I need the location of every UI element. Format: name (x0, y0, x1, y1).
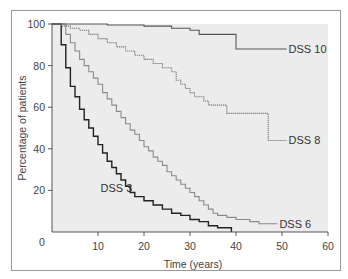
y-tick-label: 20 (33, 184, 45, 196)
y-tick-label: 100 (27, 18, 45, 30)
series-label-dss-8: DSS 8 (289, 134, 321, 146)
series-label-dss-6: DSS 6 (279, 218, 311, 230)
y-axis-title: Percentage of patients (16, 75, 28, 180)
series-label-dss-10: DSS 10 (289, 43, 327, 55)
survival-chart: 10203040506020406080100 DSS 3DSS 6DSS 8D… (0, 0, 348, 279)
y-tick-label: 60 (33, 101, 45, 113)
x-tick-label: 20 (138, 240, 150, 252)
y-tick-label: 40 (33, 143, 45, 155)
x-tick-label: 10 (92, 240, 104, 252)
x-tick-label: 40 (230, 240, 242, 252)
x-tick-label: 60 (322, 240, 334, 252)
series-label-dss-3: DSS 3 (101, 182, 133, 194)
y-tick-label: 80 (33, 60, 45, 72)
x-tick-label: 30 (184, 240, 196, 252)
x-origin-label: 0 (39, 236, 45, 248)
x-axis-title: Time (years) (164, 258, 223, 270)
x-tick-label: 50 (276, 240, 288, 252)
